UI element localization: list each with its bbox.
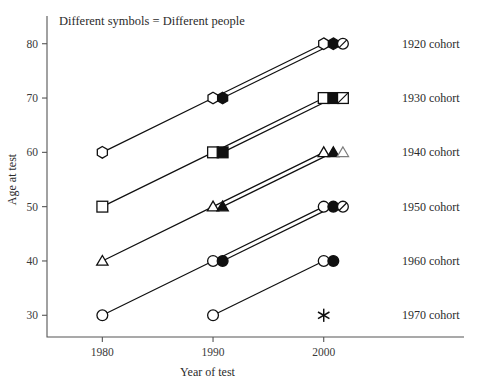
- series-line-1950-person-b: [223, 207, 334, 261]
- cohort-group-1940: [102, 152, 333, 261]
- x-axis-title: Year of test: [180, 365, 235, 379]
- data-point-1920-hexagon-open: [97, 147, 107, 159]
- series-line-1940-person-b: [223, 152, 334, 206]
- data-point-1960-circle-filled: [328, 256, 339, 267]
- cohort-label-1930: 1930 cohort: [402, 91, 460, 105]
- data-point-1920-hexagon-filled: [218, 92, 228, 104]
- cohort-label-1940: 1940 cohort: [402, 145, 460, 159]
- series-line-1920-person-b: [223, 44, 334, 98]
- data-point-1950-circle-open: [97, 310, 108, 321]
- data-point-1950-circle-slash: [338, 201, 349, 212]
- cohort-symbols-1940: [97, 147, 349, 265]
- x-tick-label: 1980: [91, 346, 114, 358]
- cohort-symbols-1960: [208, 256, 339, 321]
- chart-annotation: Different symbols = Different people: [59, 14, 245, 28]
- series-line-1960-person-a: [213, 261, 324, 315]
- axis-frame: [47, 16, 464, 337]
- y-tick-label: 70: [27, 92, 39, 104]
- cohort-age-period-chart: 304050607080198019902000 Age at testYear…: [0, 0, 485, 384]
- chart-canvas: 304050607080198019902000 Age at testYear…: [0, 0, 485, 384]
- y-tick-label: 40: [27, 255, 39, 267]
- cohort-symbols-1930: [97, 93, 348, 212]
- cohort-group-1960: [213, 261, 324, 315]
- cohort-label-1950: 1950 cohort: [402, 200, 460, 214]
- y-axis-title: Age at test: [5, 153, 19, 205]
- cohort-label-1920: 1920 cohort: [402, 37, 460, 51]
- data-point-1940-triangle-filled: [217, 201, 228, 211]
- data-point-1930-square-filled: [217, 147, 228, 158]
- y-tick-label: 60: [27, 146, 39, 158]
- data-point-1930-square-slash: [338, 93, 349, 104]
- cohort-label-1960: 1960 cohort: [402, 254, 460, 268]
- data-point-1940-triangle-open: [97, 255, 108, 265]
- axes-layer: 304050607080198019902000: [27, 16, 465, 358]
- x-tick-label: 2000: [312, 346, 335, 358]
- data-point-1940-triangle-filled: [328, 147, 339, 157]
- data-point-1940-triangle-open: [207, 201, 218, 211]
- data-point-1920-hexagon-open: [208, 92, 218, 104]
- series-symbols-layer: [97, 38, 349, 322]
- data-point-1970-star: [318, 309, 329, 322]
- x-tick-label: 1990: [202, 346, 225, 358]
- series-line-1930-person-b: [223, 98, 334, 152]
- cohort-symbols-1970: [318, 309, 329, 322]
- data-point-1950-circle-filled: [217, 256, 228, 267]
- data-point-1920-hexagon-filled: [328, 38, 338, 50]
- data-point-1960-circle-open: [208, 310, 219, 321]
- data-point-1930-square-open: [97, 201, 108, 212]
- cohort-symbols-1920: [97, 38, 348, 158]
- cohort-label-1970: 1970 cohort: [402, 308, 460, 322]
- series-lines-layer: [102, 44, 333, 316]
- data-point-1940-triangle-ghost: [337, 147, 348, 157]
- y-tick-label: 80: [27, 38, 39, 50]
- data-point-1940-triangle-open: [318, 147, 329, 157]
- cohort-symbols-1950: [97, 201, 348, 320]
- data-point-1920-hexagon-open: [319, 38, 329, 50]
- y-tick-label: 30: [27, 309, 39, 321]
- y-tick-label: 50: [27, 201, 39, 213]
- data-point-1920-circle-slash: [338, 38, 349, 49]
